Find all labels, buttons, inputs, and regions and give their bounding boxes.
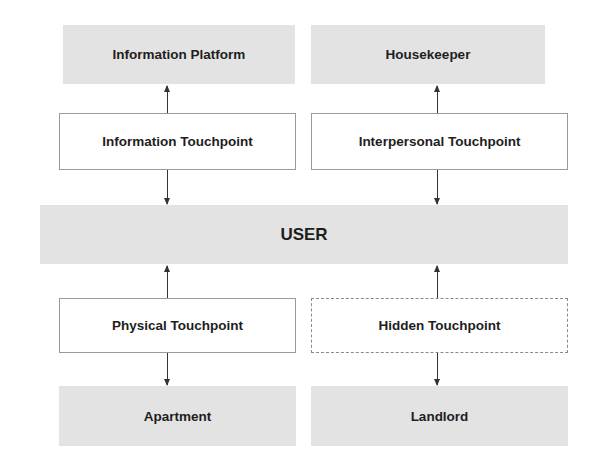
information-touchpoint-label: Information Touchpoint <box>102 134 252 149</box>
arrow-down-icon <box>167 353 168 385</box>
arrow-up-icon <box>437 266 438 298</box>
arrow-down-icon <box>167 170 168 204</box>
physical-touchpoint-box: Physical Touchpoint <box>59 298 296 353</box>
arrow-up-icon <box>167 266 168 298</box>
interpersonal-touchpoint-box: Interpersonal Touchpoint <box>311 113 568 170</box>
information-platform-label: Information Platform <box>113 47 246 62</box>
interpersonal-touchpoint-label: Interpersonal Touchpoint <box>359 134 521 149</box>
user-label: USER <box>280 225 327 245</box>
arrow-down-icon <box>437 170 438 204</box>
housekeeper-box: Housekeeper <box>311 25 545 84</box>
hidden-touchpoint-box: Hidden Touchpoint <box>311 298 568 353</box>
landlord-label: Landlord <box>411 409 469 424</box>
arrow-down-icon <box>437 353 438 385</box>
landlord-box: Landlord <box>311 386 568 446</box>
information-touchpoint-box: Information Touchpoint <box>59 113 296 170</box>
hidden-touchpoint-label: Hidden Touchpoint <box>379 318 501 333</box>
physical-touchpoint-label: Physical Touchpoint <box>112 318 243 333</box>
housekeeper-label: Housekeeper <box>386 47 471 62</box>
apartment-box: Apartment <box>59 386 296 446</box>
information-platform-box: Information Platform <box>63 25 295 84</box>
apartment-label: Apartment <box>144 409 212 424</box>
user-band: USER <box>40 205 568 264</box>
arrow-up-icon <box>167 86 168 113</box>
arrow-up-icon <box>437 86 438 113</box>
